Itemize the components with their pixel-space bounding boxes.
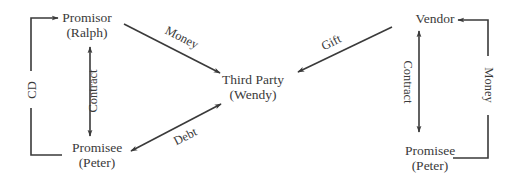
promisee-right-node: Promisee (Peter) [405, 143, 455, 173]
cd-label: CD [25, 81, 39, 98]
debt-edge: Debt [131, 104, 221, 151]
money-left-edge: Money [124, 23, 220, 73]
promisee-left-node: Promisee (Peter) [72, 140, 122, 170]
contract-left-edge: Contract [86, 47, 100, 136]
cd-bracket-bottom [31, 108, 62, 155]
third-party-name: (Wendy) [230, 87, 277, 102]
cd-bracket-top [31, 18, 58, 71]
promisor-node: Promisor (Ralph) [62, 10, 112, 40]
contract-right-label: Contract [401, 60, 415, 104]
promisor-role: Promisor [62, 10, 112, 25]
third-party-beneficiary-diagram: Promisor (Ralph) Promisee (Peter) Third … [0, 0, 519, 176]
money-right-bracket-bottom [453, 115, 488, 158]
third-party-node: Third Party (Wendy) [222, 72, 284, 102]
money-right-label: Money [482, 67, 496, 103]
vendor-node: Vendor [416, 11, 455, 26]
contract-right-edge: Contract [401, 31, 419, 132]
promisee-right-name: (Peter) [412, 158, 449, 173]
money-left-label: Money [163, 23, 202, 52]
money-right-edge: Money [453, 20, 496, 158]
contract-left-label: Contract [86, 69, 100, 113]
promisee-right-role: Promisee [405, 143, 455, 158]
vendor-role: Vendor [416, 11, 455, 26]
promisee-left-name: (Peter) [79, 155, 116, 170]
third-party-role: Third Party [222, 72, 284, 87]
gift-edge: Gift [298, 27, 392, 72]
promisor-name: (Ralph) [66, 25, 107, 40]
promisee-left-role: Promisee [72, 140, 122, 155]
gift-arrow [298, 27, 392, 72]
money-right-bracket-top [458, 20, 488, 56]
cd-edge: CD [25, 18, 62, 155]
gift-label: Gift [319, 31, 344, 53]
